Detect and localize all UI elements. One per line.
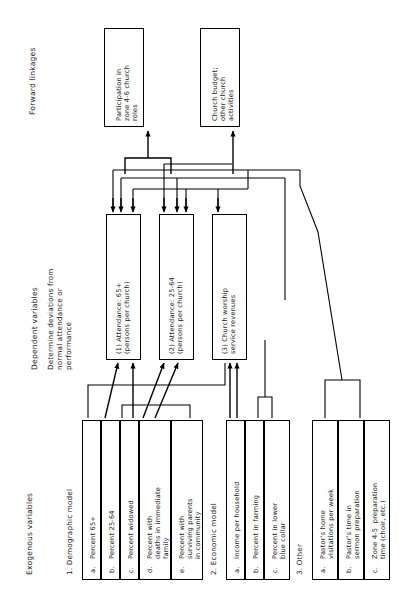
column-header-forward-linkages: Forward linkages	[28, 47, 37, 115]
exogenous-item-1d[interactable]: d. Percent with deaths in immediate fami…	[139, 420, 171, 580]
exogenous-item-2a-text: Income per household	[233, 481, 241, 559]
exogenous-item-1c-label: c.	[127, 567, 135, 573]
exogenous-group-2-title: 2. Economic model	[210, 503, 219, 575]
arrows-dependent-to-forward	[125, 131, 233, 174]
dependent-variable-1-label: (1) Attendance: 65+ (persons per church)	[115, 281, 131, 354]
dependent-variable-box-3[interactable]: (3) Church worship service revenues	[212, 214, 247, 360]
exogenous-item-3b-label: b.	[345, 566, 353, 573]
forward-linkage-1-label: Participation in zone 4-6 church roles	[115, 65, 139, 121]
exogenous-item-1b[interactable]: b. Percent 25-64	[101, 420, 120, 580]
exogenous-group-1-title: 1. Demographic model	[66, 489, 75, 575]
exogenous-item-1d-text: Percent with deaths in immediate family	[146, 487, 170, 559]
exogenous-item-3b[interactable]: b. Pastor's time in sermon preparation	[338, 420, 364, 580]
exogenous-item-2c-text: Percent in lower blue collar	[271, 503, 287, 559]
arrows-exogenous-to-dependent	[105, 363, 237, 418]
exogenous-item-2a[interactable]: a. Income per household	[226, 420, 245, 580]
exogenous-item-1d-label: d.	[146, 566, 154, 573]
exogenous-item-2b-text: Percent in farming	[252, 495, 260, 559]
dependent-variable-box-2[interactable]: (2) Attendance: 25-64 (persons per churc…	[159, 214, 194, 360]
exogenous-item-1e[interactable]: e. Percent with surviving parents in com…	[171, 420, 203, 580]
dependent-variable-3-label: (3) Church worship service revenues	[221, 288, 237, 354]
exogenous-item-3a[interactable]: a. Pastor's home visitations per week	[312, 420, 338, 580]
exogenous-item-1e-text: Percent with surviving parents in commun…	[178, 498, 202, 559]
forward-linkage-box-2[interactable]: Church budget; other church activities	[200, 28, 240, 127]
exogenous-item-1a-text: Percent 65+	[89, 516, 97, 559]
exogenous-item-3a-text: Pastor's home visitations per week	[319, 489, 335, 559]
dependent-variable-2-label: (2) Attendance: 25-64 (persons per churc…	[168, 277, 184, 354]
exogenous-item-2b-label: b.	[252, 566, 260, 573]
column-subheader-dependent-note: Determine deviations from normal attenda…	[47, 269, 73, 370]
exogenous-item-1e-label: e.	[178, 566, 186, 573]
exogenous-item-2c[interactable]: c. Percent in lower blue collar	[264, 420, 290, 580]
forward-linkage-2-label: Church budget; other church activities	[211, 67, 235, 121]
exogenous-group-3-title: 3. Other	[296, 544, 305, 575]
exogenous-item-1b-text: Percent 25-64	[108, 510, 116, 559]
exogenous-item-3b-text: Pastor's time in sermon preparation	[345, 490, 361, 559]
exogenous-item-3c-text: Zone 4-5 preparation time (choir, etc.)	[371, 483, 387, 559]
exogenous-item-1b-label: b.	[108, 566, 116, 573]
exogenous-item-1c-text: Percent widowed	[127, 500, 135, 559]
diagram-canvas: Forward linkages Dependent variables Det…	[0, 0, 410, 590]
forward-linkage-box-1[interactable]: Participation in zone 4-6 church roles	[104, 28, 144, 127]
exogenous-item-1a[interactable]: a. Percent 65+	[82, 420, 101, 580]
exogenous-item-3c[interactable]: c. Zone 4-5 preparation time (choir, etc…	[364, 420, 390, 580]
arrowheads-into-dependent	[113, 198, 218, 212]
column-header-dependent-variables: Dependent variables	[30, 287, 39, 370]
exogenous-item-1c[interactable]: c. Percent widowed	[120, 420, 139, 580]
exogenous-item-2c-label: c.	[271, 567, 279, 573]
exogenous-item-2b[interactable]: b. Percent in farming	[245, 420, 264, 580]
exogenous-item-3c-label: c.	[371, 567, 379, 573]
column-header-exogenous-variables: Exogenous variables	[25, 493, 34, 575]
dependent-variable-box-1[interactable]: (1) Attendance: 65+ (persons per church)	[106, 214, 141, 360]
exogenous-item-1a-label: a.	[89, 566, 97, 573]
exogenous-item-3a-label: a.	[319, 566, 327, 573]
exogenous-item-2a-label: a.	[233, 566, 241, 573]
